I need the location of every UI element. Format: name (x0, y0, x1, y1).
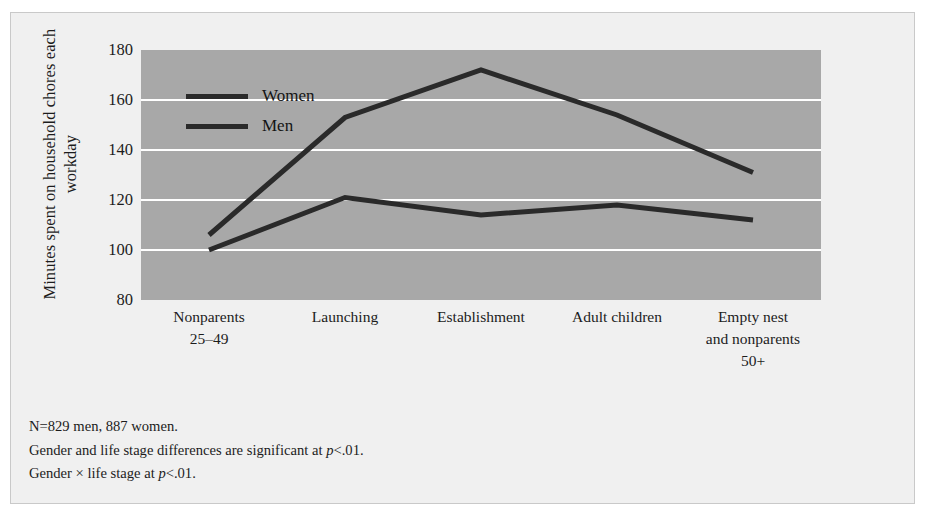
y-axis-tick-labels: 18016014012010080 (69, 50, 133, 300)
x-tick-label-5: Empty nestand nonparents50+ (685, 306, 821, 396)
footnote-2-pre: Gender and life stage differences are si… (29, 442, 326, 458)
x-tick-label-line: Launching (277, 306, 413, 328)
legend-label-men: Men (262, 116, 293, 136)
x-axis-tick-labels: Nonparents25–49LaunchingEstablishmentAdu… (141, 306, 821, 396)
y-tick-label-140: 140 (73, 142, 133, 159)
footnote-2-post: <.01. (333, 442, 363, 458)
footnote-significance-main: Gender and life stage differences are si… (29, 439, 629, 463)
chart-legend: Women Men (186, 81, 406, 141)
legend-label-women: Women (262, 86, 314, 106)
x-tick-label-4: Adult children (549, 306, 685, 396)
x-tick-label-line: and nonparents (685, 328, 821, 350)
footnote-sample-size: N=829 men, 887 women. (29, 415, 629, 439)
legend-swatch-men (186, 124, 248, 129)
y-axis-title-line-1: Minutes spent on household (40, 111, 59, 299)
x-tick-label-line: Nonparents (141, 306, 277, 328)
x-tick-label-2: Launching (277, 306, 413, 396)
y-tick-label-160: 160 (73, 92, 133, 109)
x-tick-label-line: 25–49 (141, 328, 277, 350)
x-tick-label-line: 50+ (685, 350, 821, 372)
figure-footnotes: N=829 men, 887 women. Gender and life st… (29, 415, 629, 486)
x-tick-label-line: Establishment (413, 306, 549, 328)
series-line-men (209, 198, 753, 251)
x-tick-label-3: Establishment (413, 306, 549, 396)
x-tick-label-line: Empty nest (685, 306, 821, 328)
footnote-3-post: <.01. (166, 465, 196, 481)
y-tick-label-100: 100 (73, 242, 133, 259)
figure-container: Minutes spent on household chores each w… (10, 12, 915, 504)
footnote-3-p: p (158, 465, 165, 481)
x-tick-label-line: Adult children (549, 306, 685, 328)
legend-swatch-women (186, 94, 248, 99)
y-tick-label-120: 120 (73, 192, 133, 209)
y-tick-label-80: 80 (73, 292, 133, 309)
footnote-significance-interaction: Gender × life stage at p<.01. (29, 462, 629, 486)
y-tick-label-180: 180 (73, 42, 133, 59)
legend-item-women: Women (186, 81, 406, 111)
footnote-3-pre: Gender × life stage at (29, 465, 158, 481)
x-tick-label-1: Nonparents25–49 (141, 306, 277, 396)
legend-item-men: Men (186, 111, 406, 141)
